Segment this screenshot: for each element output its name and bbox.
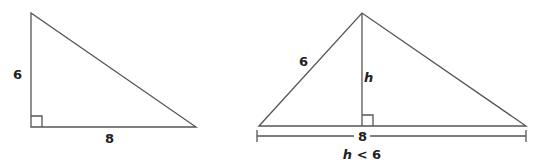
condition-relation: < 6: [352, 147, 381, 162]
right-side-label: 6: [299, 55, 308, 68]
right-triangle: [259, 13, 526, 126]
left-triangle: [31, 13, 196, 127]
right-triangle-shape: [259, 13, 526, 126]
height-condition: h < 6: [343, 148, 381, 161]
right-base-label: 8: [358, 130, 367, 143]
height-label: h: [364, 71, 373, 84]
left-triangle-shape: [31, 13, 196, 127]
left-base-label: 8: [105, 132, 114, 145]
base-dimension-line: [257, 130, 526, 142]
left-vertical-leg-label: 6: [13, 68, 22, 81]
left-right-angle-marker: [31, 116, 42, 127]
geometry-figure: [0, 0, 541, 167]
altitude-right-angle-marker: [362, 115, 373, 126]
condition-variable: h: [343, 147, 352, 162]
